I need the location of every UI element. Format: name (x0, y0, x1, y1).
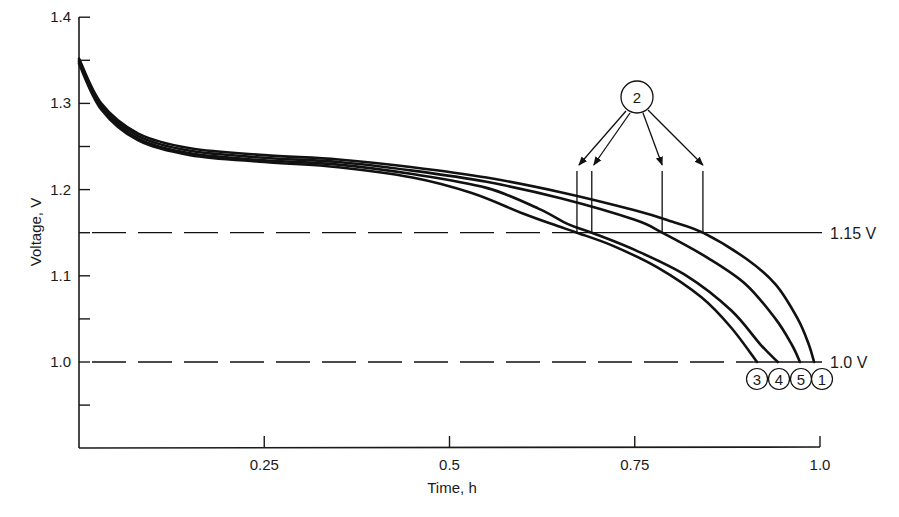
curve-label-number: 3 (753, 371, 761, 388)
curve-label-number: 5 (797, 371, 805, 388)
reference-line-label: 1.15 V (830, 225, 877, 242)
callout-arrow (648, 110, 703, 165)
x-axis-line (79, 447, 820, 448)
curve-label-number: 4 (775, 371, 783, 388)
curve-label-number: 1 (818, 371, 826, 388)
reference-line-label: 1.0 V (830, 354, 868, 371)
y-tick-label: 1.4 (50, 8, 71, 25)
x-tick-label: 0.5 (439, 456, 460, 473)
x-tick-label: 0.25 (250, 456, 279, 473)
series-curve-5 (79, 60, 800, 362)
callout-arrow (594, 113, 630, 165)
series-curve-1 (79, 59, 814, 362)
series-curve-4 (79, 62, 778, 362)
callout-arrow (579, 111, 626, 165)
y-tick-label: 1.2 (50, 181, 71, 198)
crossing-markers (577, 171, 703, 233)
voltage-time-chart: 1.15 V1.0 V 1.41.31.21.11.0 0.250.50.751… (0, 0, 899, 517)
series-curve-3 (79, 64, 757, 362)
x-axis-title: Time, h (427, 479, 476, 496)
y-tick-label: 1.1 (50, 267, 71, 284)
x-tick-label: 0.75 (620, 456, 649, 473)
callout-2: 2 (579, 81, 703, 165)
y-axis-title: Voltage, V (27, 198, 44, 266)
callout-number: 2 (633, 89, 641, 106)
x-tick-label: 1.0 (810, 456, 831, 473)
y-tick-label: 1.3 (50, 94, 71, 111)
y-tick-label: 1.0 (50, 353, 71, 370)
x-axis-ticks: 0.250.50.751.0 (250, 436, 831, 473)
data-series (79, 59, 814, 362)
curve-end-labels: 3451 (747, 369, 833, 390)
